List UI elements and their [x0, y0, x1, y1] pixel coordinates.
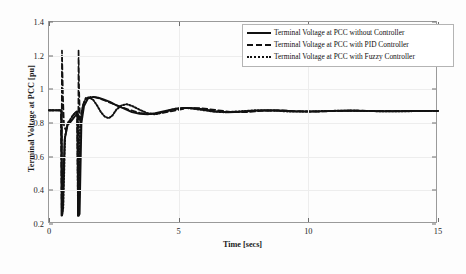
legend-swatch-solid-icon — [246, 28, 272, 38]
y-tick-mark — [432, 190, 436, 191]
gridline-horizontal — [49, 89, 436, 90]
legend-label: Terminal Voltage at PCC without Controll… — [274, 28, 404, 38]
x-tick-mark — [179, 22, 180, 26]
y-tick-label: 1.2 — [34, 51, 44, 60]
y-tick-mark — [49, 224, 53, 225]
gridline-horizontal — [49, 123, 436, 124]
gridline-horizontal — [49, 190, 436, 191]
x-axis-title: Time [secs] — [48, 240, 437, 249]
x-tick-label: 15 — [434, 227, 442, 236]
y-tick-mark — [432, 89, 436, 90]
x-tick-mark — [438, 218, 439, 222]
y-tick-label: 1 — [40, 85, 44, 94]
gridline-vertical — [179, 22, 180, 222]
figure-canvas: Terminal Voltage at PCC [pu] 0.20.40.60.… — [0, 0, 466, 274]
x-tick-label: 5 — [177, 227, 181, 236]
y-tick-label: 0.8 — [34, 119, 44, 128]
y-tick-mark — [432, 156, 436, 157]
chart-legend: Terminal Voltage at PCC without Controll… — [242, 24, 454, 67]
y-tick-mark — [49, 190, 53, 191]
y-tick-label: 0.2 — [34, 220, 44, 229]
y-tick-mark — [49, 89, 53, 90]
gridline-horizontal — [49, 157, 436, 158]
x-tick-mark — [179, 218, 180, 222]
x-tick-label: 0 — [47, 227, 51, 236]
x-tick-label: 10 — [304, 227, 312, 236]
y-tick-mark — [432, 22, 436, 23]
y-tick-mark — [432, 224, 436, 225]
y-tick-label: 0.6 — [34, 152, 44, 161]
legend-swatch-dashed-icon — [246, 40, 272, 50]
legend-swatch-dotted-icon — [246, 52, 272, 62]
y-tick-label: 0.4 — [34, 186, 44, 195]
legend-item-fuzzy-controller: Terminal Voltage at PCC with Fuzzy Contr… — [246, 51, 450, 63]
legend-item-without-controller: Terminal Voltage at PCC without Controll… — [246, 27, 450, 39]
x-tick-mark — [49, 218, 50, 222]
y-tick-mark — [49, 156, 53, 157]
legend-label: Terminal Voltage at PCC with PID Control… — [274, 40, 409, 50]
x-tick-mark — [49, 22, 50, 26]
y-tick-mark — [432, 123, 436, 124]
x-tick-mark — [308, 218, 309, 222]
y-tick-mark — [49, 55, 53, 56]
y-tick-mark — [49, 123, 53, 124]
y-tick-label: 1.4 — [34, 18, 44, 27]
legend-label: Terminal Voltage at PCC with Fuzzy Contr… — [274, 52, 415, 62]
legend-item-pid-controller: Terminal Voltage at PCC with PID Control… — [246, 39, 450, 51]
